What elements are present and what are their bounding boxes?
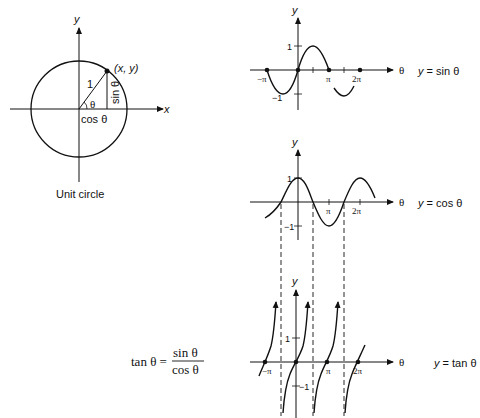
- cosine-graph: y θ 1 −1 π 2π y = cos θ: [250, 136, 462, 240]
- svg-text:−π: −π: [262, 366, 272, 376]
- point-label: (x, y): [114, 62, 139, 74]
- tan-identity: tan θ = sin θ cos θ: [131, 345, 204, 377]
- svg-text:−1: −1: [299, 382, 309, 392]
- cos-label: cos θ: [81, 113, 107, 125]
- svg-text:−1: −1: [284, 222, 294, 232]
- x-axis-label: x: [163, 103, 170, 115]
- svg-text:−π: −π: [257, 74, 267, 84]
- svg-text:y: y: [291, 136, 299, 148]
- trig-diagram: x y (x, y) 1 θ sin θ cos θ Unit circle y…: [0, 0, 480, 418]
- sine-curve-segment: [334, 86, 354, 96]
- svg-text:2π: 2π: [352, 206, 362, 216]
- cosine-equation: y = cos θ: [417, 197, 462, 209]
- tangent-graph: y θ 1 −1 −π π 2π y = tan θ: [250, 275, 477, 418]
- unit-circle-figure: x y (x, y) 1 θ sin θ cos θ Unit circle: [10, 13, 170, 200]
- svg-text:θ: θ: [399, 356, 404, 368]
- svg-text:y: y: [291, 275, 299, 287]
- radius-label: 1: [87, 78, 93, 90]
- svg-text:2π: 2π: [352, 74, 362, 84]
- svg-text:π: π: [326, 74, 331, 84]
- theta-label: θ: [399, 64, 404, 76]
- sine-graph: y θ 1 −1 −π π 2π yy = sin θ = sin θ: [250, 4, 459, 110]
- svg-text:cos θ: cos θ: [172, 362, 199, 377]
- asymptote-lines: [281, 204, 344, 416]
- point-marker: [105, 69, 110, 74]
- svg-text:1: 1: [285, 334, 290, 344]
- svg-text:π: π: [326, 366, 331, 376]
- unit-circle-caption: Unit circle: [56, 188, 104, 200]
- svg-text:1: 1: [287, 174, 292, 184]
- sine-equation: yy = sin θ = sin θ: [417, 65, 459, 77]
- svg-text:tan θ =: tan θ =: [131, 354, 167, 369]
- svg-text:1: 1: [287, 42, 292, 52]
- svg-text:−1: −1: [272, 93, 282, 103]
- y-label: y: [291, 4, 299, 16]
- svg-text:θ: θ: [399, 196, 404, 208]
- svg-text:sin θ: sin θ: [173, 345, 198, 360]
- svg-text:2π: 2π: [353, 366, 363, 376]
- sin-label: sin θ: [109, 81, 121, 104]
- y-axis-label: y: [73, 13, 81, 25]
- tangent-equation: y = tan θ: [433, 357, 477, 369]
- svg-text:π: π: [326, 206, 331, 216]
- angle-label: θ: [90, 98, 95, 110]
- angle-arc: [84, 102, 87, 109]
